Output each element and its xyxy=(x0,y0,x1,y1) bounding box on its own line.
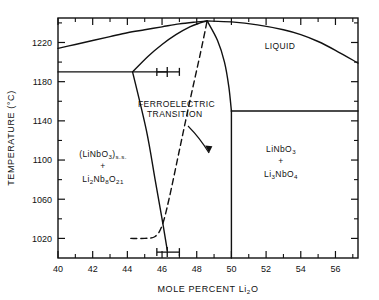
svg-text:LiNbO3: LiNbO3 xyxy=(266,144,296,155)
x-tick-label: 40 xyxy=(53,264,63,274)
svg-text:Li3NbO4: Li3NbO4 xyxy=(264,169,298,180)
y-tick-label: 1220 xyxy=(32,38,52,48)
x-tick-label: 42 xyxy=(88,264,98,274)
y-tick-label: 1020 xyxy=(32,234,52,244)
y-tick-label: 1100 xyxy=(33,155,52,165)
phase-diagram-figure: 4042444648505254561020106011001140118012… xyxy=(0,0,379,300)
region-label-liquid: LIQUID xyxy=(265,41,296,51)
x-axis-title: MOLE PERCENT Li2O xyxy=(157,284,258,295)
left-label-nb: Nb xyxy=(94,174,106,184)
y-tick-label: 1180 xyxy=(33,77,52,87)
x-axis-title-b: O xyxy=(251,284,259,294)
ferroelectric-label-line2: TRANSITION xyxy=(147,109,202,119)
right-label-nbo: NbO xyxy=(275,169,294,179)
left-label-ss: s.s. xyxy=(116,153,127,160)
left-label-plus: + xyxy=(100,161,105,171)
x-tick-label: 56 xyxy=(330,264,340,274)
y-tick-label: 1060 xyxy=(32,195,52,205)
x-tick-label: 52 xyxy=(261,264,271,274)
left-label-part-a: (LiNbO xyxy=(79,149,108,159)
x-tick-label: 44 xyxy=(122,264,132,274)
y-axis-title: TEMPERATURE (°C) xyxy=(6,90,16,186)
left-label-sub-21: 21 xyxy=(116,178,124,185)
phase-diagram-svg: 4042444648505254561020106011001140118012… xyxy=(0,0,379,300)
figure-background xyxy=(0,0,379,300)
x-tick-label: 50 xyxy=(226,264,236,274)
left-label-o: O xyxy=(109,174,116,184)
ferroelectric-label-line1: FERROELECTRIC xyxy=(138,99,215,109)
x-axis-title-a: MOLE PERCENT Li xyxy=(157,284,246,294)
y-tick-label: 1140 xyxy=(33,116,52,126)
right-label-sub-4: 4 xyxy=(294,173,298,180)
x-tick-label: 46 xyxy=(157,264,167,274)
right-label-sub-3: 3 xyxy=(292,148,296,155)
right-label-linbo: LiNbO xyxy=(266,144,292,154)
x-tick-label: 48 xyxy=(192,264,202,274)
right-label-li: Li xyxy=(264,169,271,179)
left-label-li: Li xyxy=(82,174,89,184)
right-label-plus: + xyxy=(278,156,283,166)
x-tick-label: 54 xyxy=(296,264,306,274)
